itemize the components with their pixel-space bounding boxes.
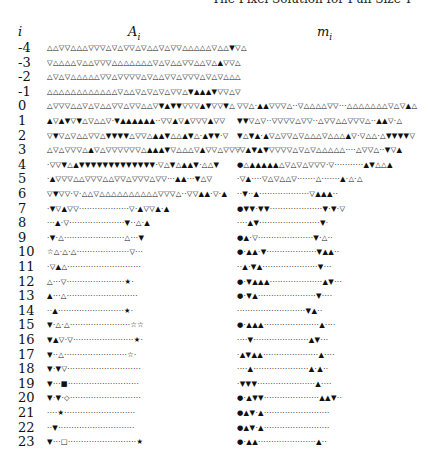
m-sequence: ▼▼▽△▽··▽▽▽▽△▽▽··△▽▽△△▽▽▽△··▲▲▽·△ bbox=[237, 113, 402, 128]
row-index: -3 bbox=[18, 55, 31, 70]
a-sequence: ·▽▲△···························· bbox=[47, 259, 141, 274]
table-row: 11·▽▲△······························▲·▼▲… bbox=[0, 259, 428, 274]
a-sequence: △△△△△△△△△△△△▽△△▽△▽△▽△▽▽△▼▲▲▲▼▽▽△▽ bbox=[47, 84, 241, 99]
a-sequence: ··▲·························★· bbox=[47, 303, 133, 318]
a-sequence: ▼··△························☆· bbox=[47, 347, 137, 362]
a-sequence: ▼·▼▽···························· bbox=[47, 361, 141, 376]
row-index: 12 bbox=[18, 274, 35, 289]
row-index: -1 bbox=[18, 84, 31, 99]
row-index: 1 bbox=[18, 113, 26, 128]
table-row: 14··▲·························★·········… bbox=[0, 303, 428, 318]
a-sequence: △···▽······················★· bbox=[47, 274, 134, 289]
table-row: 9·▼·△·······················△···▼●▲·▽···… bbox=[0, 230, 428, 245]
row-index: 19 bbox=[18, 376, 35, 391]
table-row: 18▼·▼▽································▲·… bbox=[0, 361, 428, 376]
a-sequence: ▼▲▽·▽·······················★· bbox=[47, 332, 143, 347]
row-index: 7 bbox=[18, 201, 26, 216]
table-row: 1▲▽▲▼▽▼△▽△△▽·▼▲▲▲▲▲▲··▽▽▲▽▲▽▽▽▲▽▽▼▼▽△▽··… bbox=[0, 113, 428, 128]
table-row: 20▼·▼·◇···························●·▲▼▼·… bbox=[0, 390, 428, 405]
header-i: i bbox=[18, 24, 22, 39]
row-index: 21 bbox=[18, 405, 35, 420]
a-sequence: ▲···△··························· bbox=[47, 288, 138, 303]
m-sequence: ·▼▼▼······················▲···· bbox=[237, 376, 332, 391]
table-row: 8···▲·▽·····················▼··△·▲····▲▼… bbox=[0, 215, 428, 230]
m-sequence: ●▲▼·▲························· bbox=[237, 420, 330, 435]
row-index: 0 bbox=[18, 98, 26, 113]
row-index: 20 bbox=[18, 390, 35, 405]
a-sequence: ·▼▽▲▽▽···················▽·▲▽▽▲·▲ bbox=[47, 201, 170, 216]
row-index: 10 bbox=[18, 244, 35, 259]
table-row: 0△▽▽▽△△▽△▽△△▽▽△▽▽△△▽▼▲▼▼▽▽▽▲▼▽▽▼△▽▽△·▲▲▽… bbox=[0, 98, 428, 113]
row-index: 11 bbox=[18, 259, 35, 274]
row-index: 13 bbox=[18, 288, 35, 303]
m-sequence: ·▽▲····▽△▽△△▽·······△·······▲·△·△ bbox=[237, 171, 363, 186]
m-sequence: ●·▲▼▼·····················▲▲▼·· bbox=[237, 390, 342, 405]
row-index: 6 bbox=[18, 186, 26, 201]
a-sequence: △△▽▽△△△▽▽▽△▽△▽▽△▽△△▽△▽▽△△△△△▽△△▼▽△ bbox=[47, 40, 247, 55]
row-index: 16 bbox=[18, 332, 35, 347]
a-sequence: △▽△▽▽▽△▲▽△▽▽▽▽▽▽△▲▲▲▼▽△△△▽▲▽▽△▽▽▽ bbox=[47, 142, 241, 157]
m-sequence: ●·▼▲······················▼···· bbox=[237, 288, 332, 303]
table-row: 12△···▽······················★·●·▼▲▲▲···… bbox=[0, 274, 428, 289]
table-row: 23▼···□··························★●·▲▲··… bbox=[0, 434, 428, 449]
table-row: -1△△△△△△△△△△△△▽△△▽△▽△▽△▽▽△▼▲▲▲▼▽▽△▽ bbox=[0, 84, 428, 99]
m-sequence: ····▲▼·······················▼· bbox=[237, 215, 328, 230]
row-index: 9 bbox=[18, 230, 26, 245]
a-sequence: ·▽▽▼△▲▼▼▼▼▼▼▼▼▼▼▼▼▼·▽△▼△▲▲▼·△△▼ bbox=[47, 157, 219, 172]
a-sequence: ·▲▽▽▽△△▽▽▽△△▽▽△▽▽▽△▽▽···▲▲···▼△▽ bbox=[47, 171, 212, 186]
table-row: 15▼·△·△·······················☆☆●·▲▲▲···… bbox=[0, 317, 428, 332]
a-sequence: ☆△·△·△····················▽··· bbox=[47, 244, 143, 259]
running-head: The Pixel Solution for Full Size T bbox=[212, 0, 413, 6]
table-row: 3△▽△▽▽▽△▲▽△▽▽▽▽▽▽△▲▲▲▼▽△△△▽▲▽▽△▽▽▽·▽▲▼▲▼… bbox=[0, 142, 428, 157]
row-index: -2 bbox=[18, 69, 31, 84]
row-index: 22 bbox=[18, 420, 35, 435]
table-row: -2△▽△▽△△△△△▽▽△▽▽▽▽△▽△△▽▽△▽▽▽△▽△▽△△△ bbox=[0, 69, 428, 84]
row-index: 8 bbox=[18, 215, 26, 230]
a-sequence: ··▼····························· bbox=[47, 420, 135, 435]
a-sequence: ····★··························· bbox=[47, 405, 135, 420]
a-sequence: △▽△▽△△△△△▽▽△▽▽▽▽△▽△△▽▽△▽▽▽△▽△▽△△△ bbox=[47, 69, 241, 84]
a-sequence: ▼···□··························★ bbox=[47, 434, 143, 449]
table-row: 16▼▲▽·▽·······················★·····▼···… bbox=[0, 332, 428, 347]
row-index: 23 bbox=[18, 434, 35, 449]
a-sequence: ▼·△·△·······················☆☆ bbox=[47, 317, 144, 332]
a-sequence: ▽▼▽▽·▽·△△▽△△△△△△△△△△▽▽▽△··▽▽▲▲·▽·▲ bbox=[47, 186, 227, 201]
row-index: 5 bbox=[18, 171, 26, 186]
table-row: 19▼···■····························▼▼▼··… bbox=[0, 376, 428, 391]
table-row: 17▼··△························☆··▲▼▲▲···… bbox=[0, 347, 428, 362]
m-sequence: ·▲▼▲▲·····················▲···· bbox=[237, 347, 335, 362]
table-row: 7·▼▽▲▽▽···················▽·▲▽▽▲·▲●▼▼·▼▼… bbox=[0, 201, 428, 216]
m-sequence: ··························▼▲·· bbox=[237, 303, 323, 318]
m-sequence: ●▲▼·▲························· bbox=[237, 405, 330, 420]
table-row: 4·▽▽▼△▲▼▼▼▼▼▼▼▼▼▼▼▼▼·▽△▼△▲▲▼·△△▼●△▲▲▲▲▲△… bbox=[0, 157, 428, 172]
a-sequence: ▲▽▲▼▽▼△▽△△▽·▼▲▲▲▲▲▲··▽▽▲▽▲▽▽▽▲▽▽ bbox=[47, 113, 225, 128]
m-sequence: ··▼··▲···················▽▲▲▲·· bbox=[237, 186, 338, 201]
row-index: 14 bbox=[18, 303, 35, 318]
a-sequence: ···▲·▽·····················▼··△·▲ bbox=[47, 215, 150, 230]
table-row: -4△△▽▽△△△▽▽▽△▽△▽▽△▽△△▽△▽▽△△△△△▽△△▼▽△ bbox=[0, 40, 428, 55]
row-index: 2 bbox=[18, 128, 26, 143]
table-row: 5·▲▽▽▽△△▽▽▽△△▽▽△▽▽▽△▽▽···▲▲···▼△▽·▽▲····… bbox=[0, 171, 428, 186]
table-row: 21····★···························●▲▼·▲·… bbox=[0, 405, 428, 420]
m-sequence: ●·▼▲▲▲····················▲▼··· bbox=[237, 274, 342, 289]
table-row: 22··▼·····························●▲▼·▲·… bbox=[0, 420, 428, 435]
m-sequence: ·▽▲▼▲▼▽▽▽▽△▽△▽△△△△△····△▽▽△··▼▽▲ bbox=[237, 142, 402, 157]
table-row: 2▽▼▽△▽△△▽▽△▼▼▼▼△▽▽△▲▲▼△△▲▼△·▲▼▼·▽▼△▼▲·▲▽… bbox=[0, 128, 428, 143]
header-m-i: mi bbox=[317, 24, 332, 42]
row-index: 4 bbox=[18, 157, 26, 172]
a-sequence: ▽▼▽△▽△△▽▽△▼▼▼▼△▽▽△▲▲▼△△▲▼△·▲▼▼·▽ bbox=[47, 128, 229, 143]
row-index: 15 bbox=[18, 317, 35, 332]
row-index: 17 bbox=[18, 347, 35, 362]
header-a-i: Ai bbox=[128, 24, 140, 42]
m-sequence: ●▲·▽·····················▼·△·· bbox=[237, 230, 333, 245]
m-sequence: ▼△▼▲·▲▽△▽▽△▽△△△▽△△△▲▽·▽△△·△▼▼▼▼▽ bbox=[237, 128, 415, 143]
m-sequence: ●·▲▲·▼···················▼▲▲·· bbox=[237, 244, 339, 259]
m-sequence: ●·▲▲▲·····················▲···· bbox=[237, 317, 336, 332]
table-row: 10☆△·△·△····················▽···●·▲▲·▼··… bbox=[0, 244, 428, 259]
m-sequence: ●△▲▲▲▲▲△▽△▽△▽▽▽·▽···········▲▼△△▲ bbox=[237, 157, 393, 172]
row-index: 3 bbox=[18, 142, 26, 157]
a-sequence: ▽△△△△▽△△▽▽▽△△△△△△△▽△▽△△▽▽△△▽△▲▽▽△ bbox=[47, 55, 241, 70]
table-row: 6▽▼▽▽·▽·△△▽△△△△△△△△△△▽▽▽△··▽▽▲▲·▽·▲··▼··… bbox=[0, 186, 428, 201]
a-sequence: ▼···■··························· bbox=[47, 376, 139, 391]
row-index: 18 bbox=[18, 361, 35, 376]
